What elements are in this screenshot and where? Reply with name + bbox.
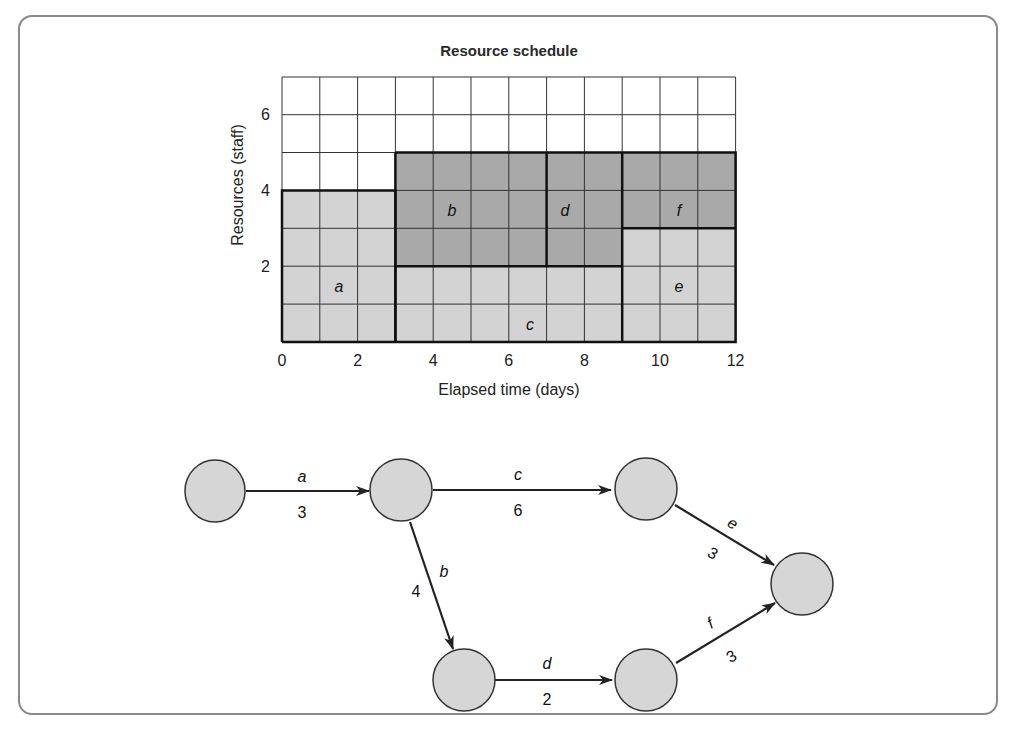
block-label-d: d bbox=[561, 202, 571, 219]
node-4 bbox=[433, 649, 495, 711]
y-tick-6: 6 bbox=[261, 106, 270, 123]
edge-duration-b: 4 bbox=[412, 583, 421, 600]
x-tick-8: 8 bbox=[580, 352, 589, 369]
edge-duration-c: 6 bbox=[514, 502, 523, 519]
node-3 bbox=[615, 458, 677, 520]
node-5 bbox=[615, 649, 677, 711]
block-label-a: a bbox=[335, 278, 344, 295]
edge-duration-f: 3 bbox=[723, 647, 739, 666]
y-tick-4: 4 bbox=[261, 182, 270, 199]
x-tick-10: 10 bbox=[651, 352, 669, 369]
x-tick-2: 2 bbox=[353, 352, 362, 369]
edge-label-e: e bbox=[725, 514, 741, 533]
x-tick-0: 0 bbox=[278, 352, 287, 369]
edge-label-c: c bbox=[514, 466, 522, 483]
edge-e bbox=[675, 505, 774, 565]
x-axis-label: Elapsed time (days) bbox=[438, 381, 579, 398]
y-tick-2: 2 bbox=[261, 258, 270, 275]
chart-title: Resource schedule bbox=[440, 42, 578, 59]
node-2 bbox=[370, 459, 432, 521]
resource-schedule-chart: Resource schedule bbox=[229, 42, 745, 398]
node-6 bbox=[771, 553, 833, 615]
block-label-e: e bbox=[675, 278, 684, 295]
edge-duration-a: 3 bbox=[298, 504, 307, 521]
edge-duration-d: 2 bbox=[543, 691, 552, 708]
activity-network: a 3 c 6 b 4 d 2 e 3 f 3 bbox=[185, 458, 833, 711]
edge-duration-e: 3 bbox=[705, 544, 721, 563]
edge-label-a: a bbox=[298, 468, 307, 485]
edge-label-b: b bbox=[440, 563, 449, 580]
x-tick-12: 12 bbox=[727, 352, 745, 369]
y-axis-label: Resources (staff) bbox=[229, 124, 246, 246]
figure-canvas: Resource schedule bbox=[0, 0, 1017, 731]
edge-label-f: f bbox=[704, 614, 718, 632]
block-label-c: c bbox=[526, 316, 534, 333]
network-edges bbox=[246, 490, 775, 680]
edge-label-d: d bbox=[543, 655, 553, 672]
x-tick-4: 4 bbox=[429, 352, 438, 369]
block-label-b: b bbox=[448, 202, 457, 219]
x-tick-6: 6 bbox=[504, 352, 513, 369]
node-1 bbox=[185, 460, 245, 522]
network-nodes bbox=[185, 458, 833, 711]
